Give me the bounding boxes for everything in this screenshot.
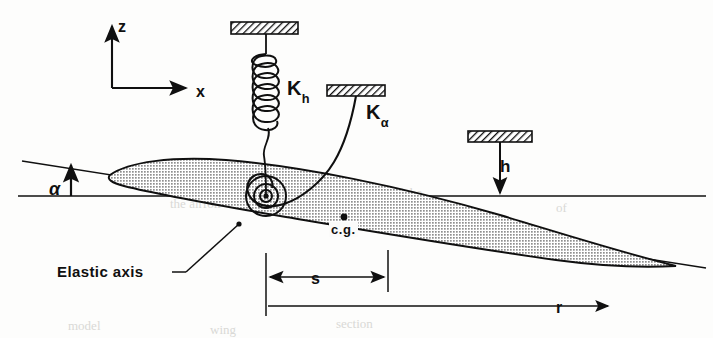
plunge-spring-label-main: K (287, 77, 301, 99)
torsion-spring-label: Kα (366, 102, 388, 127)
angle-of-attack-label: α (49, 180, 60, 198)
plunge-spring-label-subscript: h (302, 91, 310, 106)
diagram-canvas (0, 0, 713, 338)
elastic-axis-leader-line (186, 224, 239, 272)
airfoil-body (109, 159, 676, 267)
plunge-reference-block (468, 131, 532, 142)
torsion-spring-label-subscript: α (381, 115, 389, 130)
hinge-center-dot (263, 193, 268, 198)
torsion-spring-label-main: K (366, 101, 380, 123)
plunge-displacement-label: h (500, 158, 510, 175)
airfoil-outline (109, 159, 676, 267)
elastic-axis-callout (172, 221, 242, 272)
center-of-gravity-dot (341, 214, 348, 221)
plunge-support-block (231, 22, 298, 34)
elastic-axis-label: Elastic axis (57, 264, 144, 279)
dimension-r-label: r (556, 300, 562, 316)
plunge-spring-coil (252, 54, 279, 130)
axis-label-z: z (118, 19, 126, 35)
axis-label-x: x (196, 84, 205, 100)
dimension-s-label: s (311, 271, 320, 287)
plunge-spring-label: Kh (287, 78, 309, 103)
center-of-gravity-label: c.g. (329, 222, 358, 237)
aeroelastic-diagram: the airfoil of the of wing section model (0, 0, 713, 338)
torsion-support-block (327, 85, 385, 96)
coordinate-axes (112, 26, 186, 88)
